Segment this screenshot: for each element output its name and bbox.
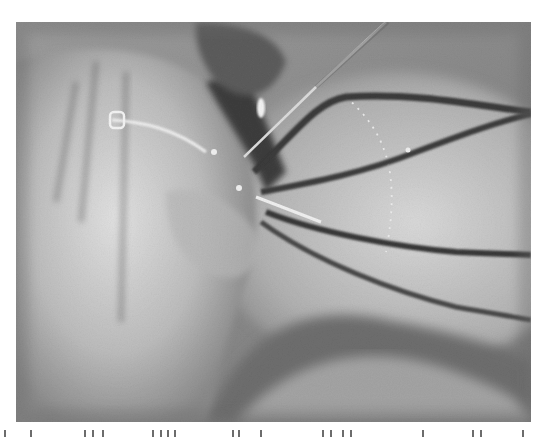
caption-glyph-fragment [4, 430, 6, 437]
caption-glyph-fragment [422, 430, 424, 437]
caption-glyph-fragment [350, 430, 352, 437]
figure-caption-clipped [0, 429, 546, 437]
caption-glyph-fragment [480, 430, 482, 437]
photo-canvas [16, 22, 531, 422]
caption-glyph-fragment [232, 430, 234, 437]
caption-glyph-fragment [30, 430, 32, 437]
caption-glyph-fragment [152, 430, 154, 437]
caption-glyph-fragment [92, 430, 94, 437]
caption-glyph-fragment [84, 430, 86, 437]
caption-glyph-fragment [260, 430, 262, 437]
specular-highlight [257, 98, 265, 118]
caption-glyph-fragment [322, 430, 324, 437]
marker-dot-1 [211, 149, 217, 155]
caption-ascenders [2, 429, 542, 437]
caption-glyph-fragment [238, 430, 240, 437]
marker-dot-2 [236, 185, 242, 191]
caption-glyph-fragment [330, 430, 332, 437]
caption-glyph-fragment [522, 430, 524, 437]
caption-glyph-fragment [472, 430, 474, 437]
caption-glyph-fragment [160, 430, 162, 437]
marker-dot-3 [406, 148, 411, 153]
caption-glyph-fragment [102, 430, 104, 437]
caption-glyph-fragment [167, 430, 169, 437]
caption-glyph-fragment [174, 430, 176, 437]
surgical-photograph [16, 22, 531, 422]
caption-glyph-fragment [342, 430, 344, 437]
